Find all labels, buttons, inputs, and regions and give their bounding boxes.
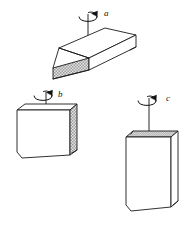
axis-label-b: b	[58, 89, 63, 99]
block-c-right-face	[171, 131, 178, 207]
block-c-front-face	[126, 137, 171, 211]
block-b-top-face	[17, 104, 77, 110]
block-c-top-face	[126, 131, 178, 137]
rotating-blocks-figure: a b	[0, 0, 193, 225]
block-b-front-face	[17, 110, 70, 158]
figure-canvas: a b	[0, 0, 193, 225]
block-b-right-face	[70, 104, 77, 155]
axis-label-c: c	[166, 93, 170, 103]
axis-label-a: a	[104, 8, 109, 18]
